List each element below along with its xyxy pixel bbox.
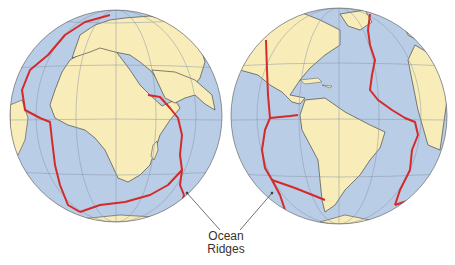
ocean-ridges-label: Ocean Ridges — [196, 230, 256, 256]
ocean-ridges-diagram — [0, 0, 455, 265]
leader-line-right — [240, 193, 272, 230]
leader-lines — [186, 192, 273, 230]
western-hemisphere-globe — [230, 8, 447, 230]
leader-line-left — [187, 193, 220, 230]
arrow-tip-left-icon — [186, 192, 188, 194]
arrow-tip-right-icon — [271, 192, 273, 194]
label-line-ridges: Ridges — [196, 243, 256, 256]
